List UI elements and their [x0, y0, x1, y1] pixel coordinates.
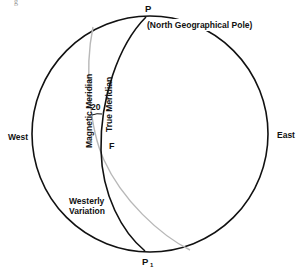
variation-diagram: g P (North Geographical Pole) P 1 West E…	[0, 0, 301, 277]
south-pole-label: P 1	[142, 256, 154, 268]
true-meridian-label: True Meridian	[104, 77, 114, 132]
north-pole-description: (North Geographical Pole)	[147, 20, 252, 30]
true-meridian-line	[101, 17, 146, 251]
westerly-variation-label-line2: Variation	[69, 206, 105, 216]
westerly-variation-label-line1: Westerly	[69, 196, 105, 206]
svg-text:P: P	[142, 256, 149, 267]
north-pole-label: P	[145, 3, 152, 14]
magnetic-meridian-line	[89, 27, 190, 250]
globe-outline	[32, 16, 268, 252]
figure-tag: g	[14, 0, 18, 6]
angle-label: 20	[91, 102, 101, 112]
west-label: West	[8, 132, 28, 142]
east-label: East	[277, 130, 295, 140]
south-pole-subscript: 1	[150, 262, 154, 268]
point-f-label: F	[109, 141, 115, 151]
